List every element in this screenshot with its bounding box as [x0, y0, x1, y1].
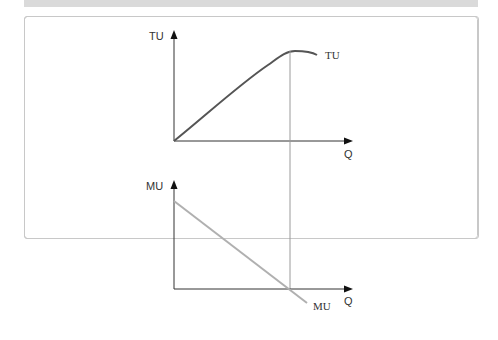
top-graph: TU TU Q	[149, 30, 353, 160]
tu-curve-label: TU	[325, 49, 340, 61]
tu-x-axis-label: Q	[344, 148, 353, 160]
tu-x-axis-arrow-icon	[344, 138, 353, 145]
tu-y-axis-arrow-icon	[171, 30, 178, 39]
mu-curve	[174, 201, 307, 303]
mu-y-axis-arrow-icon	[171, 180, 178, 189]
mu-curve-label: MU	[313, 300, 331, 312]
tu-y-axis-label: TU	[149, 30, 164, 42]
mu-y-axis-label: MU	[146, 180, 163, 192]
utility-diagram: TU TU Q MU MU Q	[0, 0, 498, 340]
mu-x-axis-arrow-icon	[344, 286, 353, 293]
bottom-graph: MU MU Q	[146, 180, 353, 312]
mu-x-axis-label: Q	[344, 295, 353, 307]
tu-curve	[174, 51, 317, 141]
